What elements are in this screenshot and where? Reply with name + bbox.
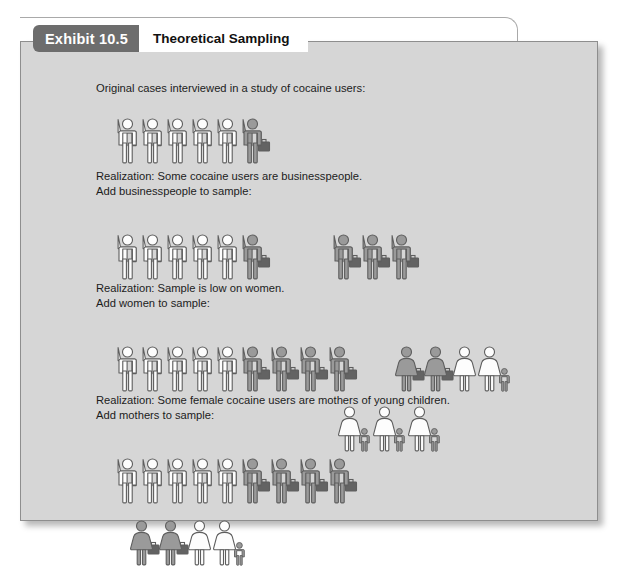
exhibit-header: Exhibit 10.5 Theoretical Sampling bbox=[33, 25, 308, 52]
section-caption: Original cases interviewed in a study of… bbox=[96, 81, 598, 96]
figure-man-gray-with-briefcase bbox=[241, 118, 275, 164]
figure-man-white bbox=[116, 118, 139, 164]
figure-man-white bbox=[166, 234, 189, 280]
section-add-mothers: Realization: Some female cocaine users a… bbox=[20, 393, 598, 566]
figure-group-group-mothers-added bbox=[338, 406, 443, 452]
figure-man-white bbox=[141, 346, 164, 392]
figure-row-row-mothers-bottom bbox=[130, 520, 598, 566]
figure-group-group-women-added bbox=[395, 346, 513, 392]
figure-man-white bbox=[216, 234, 239, 280]
figure-man-white bbox=[166, 118, 189, 164]
figure-row-row-original bbox=[116, 118, 598, 164]
figure-woman-white bbox=[478, 346, 511, 392]
figure-man-white bbox=[216, 458, 239, 504]
figure-man-white bbox=[191, 234, 214, 280]
figure-man-white bbox=[191, 118, 214, 164]
exhibit-frame: Exhibit 10.5 Theoretical Sampling Origin… bbox=[20, 17, 598, 521]
figure-group-group-women-existing bbox=[116, 346, 357, 392]
figure-man-white bbox=[216, 346, 239, 392]
section-original-cases: Original cases interviewed in a study of… bbox=[20, 81, 598, 164]
figure-woman-white bbox=[213, 520, 246, 566]
figure-man-white bbox=[166, 346, 189, 392]
figure-man-white bbox=[216, 118, 239, 164]
figure-group-group-business-existing bbox=[116, 234, 270, 280]
section-caption: Realization: Some cocaine users are busi… bbox=[96, 169, 598, 198]
figure-child-gray bbox=[358, 428, 371, 452]
exhibit-number-badge: Exhibit 10.5 bbox=[33, 25, 139, 52]
figure-man-white bbox=[141, 234, 164, 280]
figure-group-group-original-main bbox=[116, 118, 270, 164]
figure-man-gray-with-briefcase bbox=[241, 234, 275, 280]
figure-row-row-women bbox=[116, 346, 598, 392]
figure-woman-white bbox=[408, 406, 441, 452]
figure-man-white bbox=[166, 458, 189, 504]
figure-row-row-mothers-added bbox=[338, 406, 443, 452]
figure-woman-white bbox=[373, 406, 406, 452]
figure-man-white bbox=[191, 458, 214, 504]
figure-man-white bbox=[116, 458, 139, 504]
figure-child-gray bbox=[233, 542, 246, 566]
section-add-businesspeople: Realization: Some cocaine users are busi… bbox=[20, 169, 598, 280]
figure-woman-white bbox=[338, 406, 371, 452]
figure-man-white bbox=[191, 346, 214, 392]
section-add-women: Realization: Sample is low on women. Add… bbox=[20, 281, 598, 392]
figure-woman-white bbox=[453, 346, 476, 392]
exhibit-title: Theoretical Sampling bbox=[139, 25, 308, 52]
figure-group-group-mothers-men bbox=[116, 458, 357, 504]
figure-child-gray bbox=[393, 428, 406, 452]
figure-row-row-businesspeople bbox=[116, 234, 598, 280]
figure-man-white bbox=[141, 118, 164, 164]
figure-man-gray-with-briefcase bbox=[390, 234, 424, 280]
figure-man-gray-with-briefcase bbox=[328, 346, 362, 392]
figure-child-gray bbox=[498, 368, 511, 392]
figure-man-gray-with-briefcase bbox=[328, 458, 362, 504]
figure-man-white bbox=[141, 458, 164, 504]
figure-man-white bbox=[116, 346, 139, 392]
figure-woman-white bbox=[188, 520, 211, 566]
figure-child-gray bbox=[428, 428, 441, 452]
figure-group-group-business-added bbox=[332, 234, 419, 280]
figure-group-group-mothers-women bbox=[130, 520, 248, 566]
figure-man-white bbox=[116, 234, 139, 280]
figure-row-row-mothers-top bbox=[116, 458, 598, 504]
exhibit-content: Original cases interviewed in a study of… bbox=[20, 41, 598, 521]
section-caption: Realization: Sample is low on women. Add… bbox=[96, 281, 598, 310]
